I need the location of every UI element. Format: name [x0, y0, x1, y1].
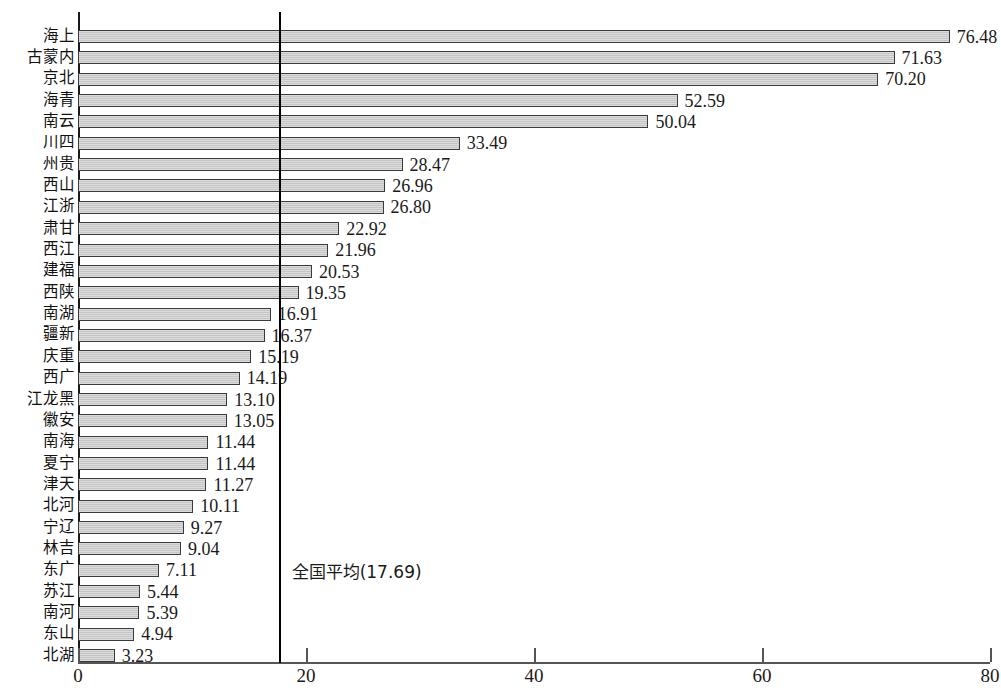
bar[interactable] [78, 628, 134, 641]
bar[interactable] [78, 329, 265, 342]
category-label-吉林: 吉林 [43, 538, 75, 559]
bar-row: 9.04 [78, 538, 990, 559]
bar[interactable] [78, 30, 950, 43]
bar-value-label: 11.44 [215, 433, 255, 451]
bar[interactable] [78, 308, 271, 321]
category-label-甘肃: 甘肃 [43, 218, 75, 239]
bar-row: 13.10 [78, 389, 990, 410]
category-label-char: 安 [59, 412, 75, 428]
category-label-char: 河 [59, 605, 75, 621]
bar[interactable] [78, 542, 181, 555]
category-label-贵州: 贵州 [43, 154, 75, 175]
category-label-char: 川 [43, 135, 59, 151]
bar-row: 76.48 [78, 26, 990, 47]
x-tick [306, 648, 308, 662]
category-label-新疆: 新疆 [43, 324, 75, 345]
bar[interactable] [78, 222, 339, 235]
bar-value-label: 10.11 [200, 497, 240, 515]
category-label-char: 浙 [59, 199, 75, 215]
category-label-char: 湖 [59, 647, 75, 663]
category-label-char: 疆 [43, 327, 59, 343]
bar-row: 4.94 [78, 624, 990, 645]
bar[interactable] [78, 73, 878, 86]
bar[interactable] [78, 115, 648, 128]
bar[interactable] [78, 436, 208, 449]
bar-value-label: 16.91 [278, 305, 319, 323]
bar[interactable] [78, 478, 206, 491]
bar-value-label: 26.80 [391, 198, 432, 216]
category-label-char: 青 [59, 92, 75, 108]
x-tick-label: 20 [297, 666, 316, 685]
category-label-湖南: 湖南 [43, 303, 75, 324]
category-label-char: 庆 [43, 348, 59, 364]
category-label-char: 福 [59, 263, 75, 279]
category-label-char: 海 [43, 92, 59, 108]
bar[interactable] [78, 51, 895, 64]
category-label-char: 海 [59, 434, 75, 450]
bar-row: 26.80 [78, 197, 990, 218]
category-label-云南: 云南 [43, 111, 75, 132]
bar[interactable] [78, 414, 227, 427]
bar-row: 21.96 [78, 240, 990, 261]
bar[interactable] [78, 179, 385, 192]
category-label-char: 东 [43, 626, 59, 642]
bar-row: 7.11 [78, 560, 990, 581]
category-label-char: 州 [43, 156, 59, 172]
bar[interactable] [78, 393, 227, 406]
bar[interactable] [78, 372, 240, 385]
category-label-山东: 山东 [43, 623, 75, 644]
bar[interactable] [78, 137, 460, 150]
category-label-char: 云 [59, 113, 75, 129]
bar-value-label: 9.27 [191, 519, 223, 537]
bar-row: 9.27 [78, 517, 990, 538]
bar[interactable] [78, 585, 140, 598]
bar-row: 52.59 [78, 90, 990, 111]
category-label-char: 西 [43, 242, 59, 258]
bar-value-label: 13.05 [234, 412, 275, 430]
bar[interactable] [78, 244, 328, 257]
category-label-char: 四 [59, 135, 75, 151]
category-label-山西: 山西 [43, 175, 75, 196]
bar[interactable] [78, 457, 208, 470]
bar-row: 22.92 [78, 218, 990, 239]
bar[interactable] [78, 521, 184, 534]
bar[interactable] [78, 564, 159, 577]
bar-value-label: 76.48 [957, 28, 998, 46]
bar-rows: 76.4871.6370.2052.5950.0433.4928.4726.96… [78, 12, 990, 662]
category-label-河南: 河南 [43, 602, 75, 623]
category-label-海南: 海南 [43, 431, 75, 452]
bar[interactable] [78, 94, 678, 107]
category-label-char: 天 [59, 476, 75, 492]
bar[interactable] [78, 158, 403, 171]
bar-row: 70.20 [78, 69, 990, 90]
bar-row: 71.63 [78, 47, 990, 68]
category-label-char: 东 [43, 562, 59, 578]
bar[interactable] [78, 286, 299, 299]
bar-value-label: 9.04 [188, 540, 220, 558]
bar-row: 5.39 [78, 602, 990, 623]
bar-value-label: 26.96 [392, 177, 433, 195]
bar[interactable] [78, 500, 193, 513]
bar-row: 10.11 [78, 496, 990, 517]
category-label-char: 辽 [59, 519, 75, 535]
category-label-char: 内 [59, 49, 75, 65]
category-label-char: 林 [43, 540, 59, 556]
category-label-char: 江 [27, 391, 43, 407]
category-label-char: 甘 [59, 220, 75, 236]
bar[interactable] [78, 350, 251, 363]
bar-value-label: 50.04 [655, 113, 696, 131]
category-label-char: 夏 [43, 455, 59, 471]
bar[interactable] [78, 649, 115, 662]
bar[interactable] [78, 606, 139, 619]
category-label-char: 西 [43, 370, 59, 386]
bar[interactable] [78, 201, 384, 214]
category-label-char: 龙 [43, 391, 59, 407]
category-label-char: 徽 [43, 412, 59, 428]
bar-row: 15.19 [78, 346, 990, 367]
category-label-char: 古 [27, 49, 43, 65]
bar[interactable] [78, 265, 312, 278]
category-label-char: 湖 [59, 306, 75, 322]
bar-row: 26.96 [78, 175, 990, 196]
category-label-char: 北 [59, 71, 75, 87]
bar-value-label: 22.92 [346, 220, 387, 238]
